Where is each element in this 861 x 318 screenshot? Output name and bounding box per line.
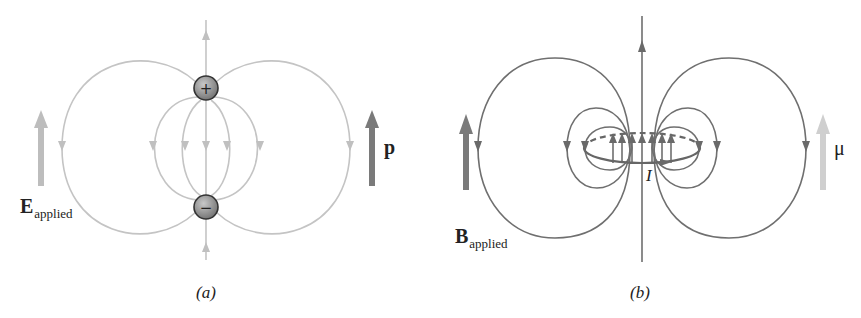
dipole-field-figure: + −: [0, 0, 861, 318]
negative-charge: −: [194, 195, 218, 219]
minus-sign-icon: −: [200, 199, 213, 217]
applied-electric-field-label: Eapplied: [20, 195, 73, 222]
label-symbol: E: [20, 195, 33, 217]
label-subscript: applied: [469, 236, 507, 251]
magnetic-moment-label: μ: [834, 137, 845, 160]
caption-a: (a): [196, 283, 216, 303]
label-subscript: applied: [34, 206, 72, 221]
label-symbol: B: [455, 225, 468, 247]
applied-magnetic-field-label: Bapplied: [455, 225, 508, 252]
magnetic-moment-arrow-icon: [816, 114, 830, 190]
dipole-moment-arrow-icon: [365, 110, 379, 186]
plus-sign-icon: +: [200, 80, 213, 98]
applied-field-arrow-icon: [459, 114, 473, 190]
positive-charge: +: [194, 76, 218, 100]
diagram-canvas: + −: [0, 0, 861, 318]
caption-b: (b): [630, 283, 650, 303]
applied-field-arrow-icon: [34, 110, 48, 186]
panel-b-magnetic-dipole: [459, 16, 830, 262]
dipole-moment-label: p: [384, 136, 395, 159]
current-label: I: [646, 166, 652, 186]
panel-a-electric-dipole: + −: [34, 20, 379, 260]
electric-field-lines: [62, 20, 350, 260]
